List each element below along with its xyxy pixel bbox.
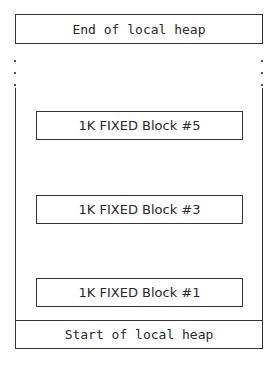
continuation-dot (261, 60, 263, 62)
heap-left-wall (15, 88, 16, 321)
start-of-local-heap-box: Start of local heap (15, 320, 263, 349)
continuation-dot (14, 72, 16, 74)
continuation-dot (14, 84, 16, 86)
continuation-dot (261, 84, 263, 86)
heap-right-wall (262, 88, 263, 321)
fixed-block-5: 1K FIXED Block #5 (36, 111, 243, 140)
start-of-local-heap-label: Start of local heap (65, 327, 214, 342)
continuation-dot (14, 60, 16, 62)
fixed-block-1: 1K FIXED Block #1 (36, 278, 243, 307)
end-of-local-heap-label: End of local heap (72, 22, 205, 37)
block-label: 1K FIXED Block #3 (79, 202, 201, 217)
block-label: 1K FIXED Block #5 (79, 118, 201, 133)
block-label: 1K FIXED Block #1 (79, 285, 201, 300)
end-of-local-heap-box: End of local heap (15, 14, 263, 44)
fixed-block-3: 1K FIXED Block #3 (36, 195, 243, 224)
continuation-dot (261, 72, 263, 74)
